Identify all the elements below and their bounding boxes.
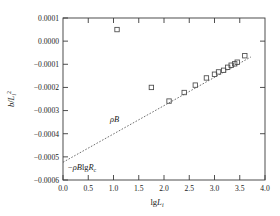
data-markers <box>115 27 247 103</box>
data-point <box>115 27 119 31</box>
x-tick-labels: 0.0 0.5 1.0 1.5 2.0 2.5 3.0 3.5 4.0 <box>58 184 270 193</box>
data-point <box>193 83 197 87</box>
scatter-plot-svg: 0.0001 0.0000 −0.0001 −0.0002 −0.0003 −0… <box>0 0 280 216</box>
y-axis-title-den-sub: i <box>11 94 17 96</box>
y-axis-title-den-sup: 2 <box>6 91 12 94</box>
y-tick-label: −0.0005 <box>34 153 59 162</box>
y-tick-label: −0.0003 <box>34 106 59 115</box>
x-tick-label: 2.5 <box>185 184 195 193</box>
data-point <box>149 85 153 89</box>
y-tick-label: −0.0004 <box>34 130 59 139</box>
x-tick-label: 1.0 <box>109 184 119 193</box>
svg-text:lgLi: lgLi <box>150 197 163 208</box>
x-tick-label: 3.0 <box>210 184 220 193</box>
y-axis-ticks <box>63 18 265 180</box>
x-axis-title: lgLi <box>150 197 163 208</box>
y-tick-labels: 0.0001 0.0000 −0.0001 −0.0002 −0.0003 −0… <box>34 14 59 185</box>
slope-label: ρB <box>109 115 119 124</box>
plot-frame <box>63 18 265 180</box>
intercept-label: −ρBlgRc <box>68 163 97 173</box>
x-tick-label: 3.5 <box>235 184 245 193</box>
x-axis-title-sub: i <box>162 202 164 208</box>
x-tick-label: 1.5 <box>134 184 144 193</box>
x-tick-label: 2.0 <box>159 184 169 193</box>
svg-text:b/Li2: b/Li2 <box>6 91 17 107</box>
data-point <box>243 54 247 58</box>
x-tick-label: 0.0 <box>58 184 68 193</box>
y-axis-title: b/Li2 <box>6 91 17 107</box>
y-tick-label: −0.0001 <box>34 60 59 69</box>
data-point <box>204 76 208 80</box>
y-tick-label: 0.0001 <box>38 14 59 23</box>
chart-figure: 0.0001 0.0000 −0.0001 −0.0002 −0.0003 −0… <box>0 0 280 216</box>
x-tick-label: 0.5 <box>84 184 94 193</box>
x-axis-ticks <box>63 18 265 180</box>
x-tick-label: 4.0 <box>260 184 270 193</box>
y-tick-label: −0.0006 <box>34 176 59 185</box>
y-tick-label: −0.0002 <box>34 83 59 92</box>
y-tick-label: 0.0000 <box>38 37 59 46</box>
